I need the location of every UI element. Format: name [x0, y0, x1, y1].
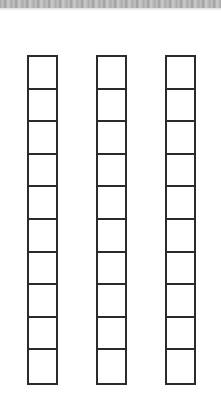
strip-cell — [167, 90, 194, 123]
strip-cell — [98, 155, 125, 188]
strip-cell — [98, 187, 125, 220]
strip-cell — [167, 155, 194, 188]
strip-cell — [98, 350, 125, 383]
strip-cell — [98, 253, 125, 286]
strip-cell — [98, 122, 125, 155]
strip-cell — [29, 220, 56, 253]
strip-cell — [167, 318, 194, 351]
strip-cell — [29, 90, 56, 123]
strip-cell — [167, 220, 194, 253]
strip-cell — [29, 285, 56, 318]
strip-cell — [167, 57, 194, 90]
ten-strip-1 — [27, 55, 58, 385]
strip-cell — [29, 350, 56, 383]
strip-cell — [29, 155, 56, 188]
strip-cell — [98, 90, 125, 123]
strip-cell — [29, 318, 56, 351]
strip-cell — [167, 285, 194, 318]
strip-cell — [98, 318, 125, 351]
strip-cell — [167, 122, 194, 155]
strip-cell — [167, 187, 194, 220]
strip-cell — [29, 122, 56, 155]
strip-cell — [98, 220, 125, 253]
strip-cell — [29, 57, 56, 90]
strip-cell — [167, 253, 194, 286]
ten-strip-3 — [165, 55, 196, 385]
strip-cell — [98, 57, 125, 90]
strip-cell — [29, 187, 56, 220]
strip-cell — [29, 253, 56, 286]
ten-strip-2 — [96, 55, 127, 385]
scan-edge — [0, 0, 221, 8]
strip-cell — [98, 285, 125, 318]
strip-cell — [167, 350, 194, 383]
